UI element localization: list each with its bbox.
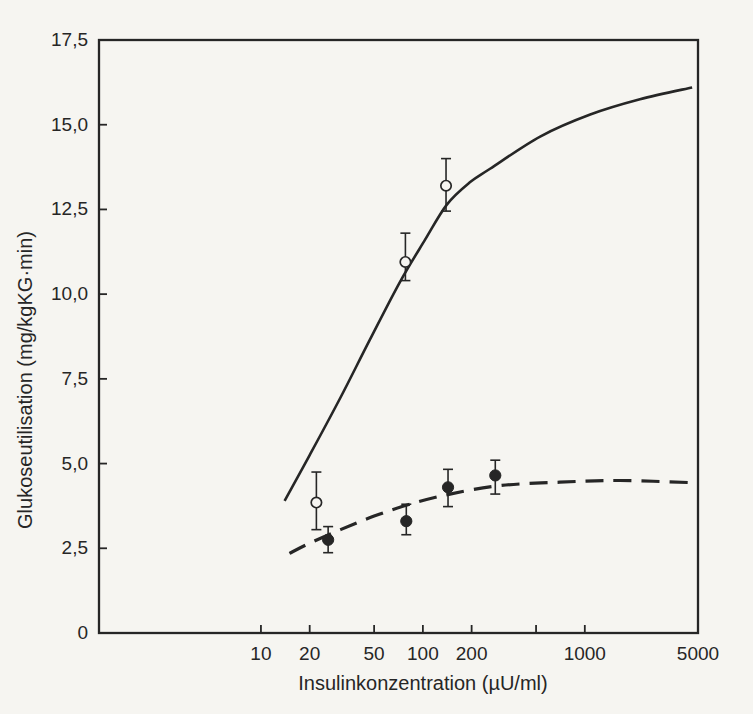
- x-tick-label: 1000: [564, 643, 606, 664]
- data-point-filled-circle: [442, 482, 453, 493]
- filled-circles-dashed-curve-line: [289, 481, 698, 554]
- y-tick-label: 7,5: [62, 368, 88, 389]
- y-tick-label: 17,5: [51, 29, 88, 50]
- data-point-open-circle: [441, 181, 451, 191]
- y-tick-label: 2,5: [62, 537, 88, 558]
- data-point-open-circle: [400, 257, 410, 267]
- y-tick-label: 0: [77, 622, 88, 643]
- x-tick-label: 5000: [677, 643, 719, 664]
- x-tick-label: 100: [407, 643, 439, 664]
- data-point-filled-circle: [401, 516, 412, 527]
- open-circles-solid-curve-line: [285, 87, 693, 500]
- plot-box: [99, 40, 698, 633]
- figure-scan-page: 1020501002001000500002,55,07,510,012,515…: [0, 0, 753, 714]
- data-point-filled-circle: [490, 470, 501, 481]
- y-axis-title: Glukoseutilisation (mg/kgKG·min): [14, 231, 36, 529]
- y-tick-label: 12,5: [51, 198, 88, 219]
- dose-response-chart: 1020501002001000500002,55,07,510,012,515…: [0, 0, 753, 714]
- x-axis-title: Insulinkonzentration (µU/ml): [298, 672, 547, 694]
- data-point-open-circle: [311, 497, 321, 507]
- y-tick-label: 15,0: [51, 114, 88, 135]
- y-tick-label: 5,0: [62, 453, 88, 474]
- x-tick-label: 20: [299, 643, 320, 664]
- y-tick-label: 10,0: [51, 283, 88, 304]
- data-point-filled-circle: [323, 534, 334, 545]
- x-tick-label: 10: [250, 643, 271, 664]
- x-tick-label: 200: [456, 643, 488, 664]
- x-tick-label: 50: [364, 643, 385, 664]
